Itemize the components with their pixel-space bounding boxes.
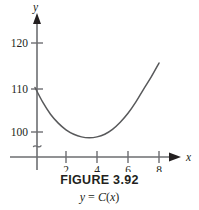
plot-area: y x 120 110 100 2 4 6 [0, 0, 199, 172]
cost-curve-path [35, 63, 159, 138]
axis-break-icon [34, 146, 42, 147]
figure-caption-equation: y = C(x) [0, 189, 199, 206]
figure-caption-title: FIGURE 3.92 [0, 172, 199, 188]
x-tick-label-8: 8 [156, 164, 162, 172]
equation-paren-close: ) [115, 190, 119, 204]
y-tick-label-120: 120 [11, 37, 29, 49]
equation-equals: = [85, 190, 98, 204]
graph-svg: y x 120 110 100 2 4 6 [0, 0, 199, 172]
x-tick-label-2: 2 [63, 164, 69, 172]
x-axis-label: x [185, 151, 192, 163]
y-axis-label: y [32, 1, 39, 14]
y-axis-arrow-icon [33, 13, 41, 24]
x-tick-label-4: 4 [94, 164, 100, 172]
y-tick-label-110: 110 [11, 83, 28, 95]
figure-container: y x 120 110 100 2 4 6 [0, 0, 199, 210]
x-axis-arrow-icon [169, 153, 181, 162]
y-tick-label-100: 100 [11, 126, 29, 138]
figure-caption: FIGURE 3.92 y = C(x) [0, 172, 199, 206]
x-tick-label-6: 6 [125, 164, 131, 172]
equation-function: C [98, 190, 106, 204]
